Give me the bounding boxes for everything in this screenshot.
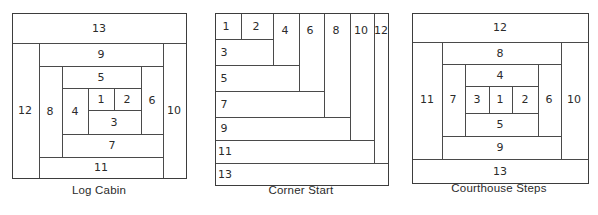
caption-courthouse-steps: Courthouse Steps bbox=[400, 182, 598, 194]
piece-number-log-cabin-3: 3 bbox=[111, 116, 118, 129]
piece-number-courthouse-steps-4: 4 bbox=[497, 69, 504, 82]
piece-number-courthouse-steps-2: 2 bbox=[522, 93, 529, 106]
piece-number-courthouse-steps-12: 12 bbox=[493, 21, 507, 34]
piece-number-corner-start-7: 7 bbox=[221, 98, 228, 111]
piece-number-log-cabin-9: 9 bbox=[98, 48, 105, 61]
piece-number-courthouse-steps-13: 13 bbox=[493, 165, 507, 178]
piece-number-log-cabin-2: 2 bbox=[124, 93, 131, 106]
piece-corner-start-11 bbox=[216, 141, 375, 164]
piece-number-log-cabin-5: 5 bbox=[98, 71, 105, 84]
piece-number-log-cabin-13: 13 bbox=[92, 22, 106, 35]
piece-number-log-cabin-6: 6 bbox=[149, 94, 156, 107]
piece-corner-start-7 bbox=[216, 92, 325, 118]
piece-number-courthouse-steps-10: 10 bbox=[567, 93, 581, 106]
piece-number-corner-start-2: 2 bbox=[253, 20, 260, 33]
piece-number-corner-start-5: 5 bbox=[221, 72, 228, 85]
piece-number-corner-start-6: 6 bbox=[307, 24, 314, 37]
piece-number-log-cabin-10: 10 bbox=[167, 104, 181, 117]
caption-corner-start: Corner Start bbox=[202, 184, 400, 196]
blocks-group: 1234567891011121312345678910111213123456… bbox=[13, 14, 589, 186]
piece-number-log-cabin-7: 7 bbox=[109, 139, 116, 152]
piece-number-courthouse-steps-9: 9 bbox=[497, 141, 504, 154]
quilt-diagram-page: 1234567891011121312345678910111213123456… bbox=[0, 0, 598, 215]
quilt-block-log-cabin: 12345678910111213 bbox=[13, 14, 187, 179]
piece-number-log-cabin-12: 12 bbox=[18, 104, 32, 117]
piece-number-corner-start-10: 10 bbox=[354, 24, 368, 37]
piece-number-corner-start-11: 11 bbox=[218, 145, 232, 158]
piece-corner-start-5 bbox=[216, 66, 300, 92]
quilt-block-courthouse-steps: 12345678910111213 bbox=[413, 14, 589, 184]
piece-number-courthouse-steps-3: 3 bbox=[474, 93, 481, 106]
piece-number-log-cabin-1: 1 bbox=[98, 93, 105, 106]
piece-number-corner-start-8: 8 bbox=[333, 24, 340, 37]
piece-corner-start-4 bbox=[274, 14, 300, 66]
quilt-block-corner-start: 12345678910111213 bbox=[216, 14, 389, 186]
piece-corner-start-13 bbox=[216, 164, 389, 186]
piece-number-corner-start-13: 13 bbox=[218, 168, 232, 181]
caption-log-cabin: Log Cabin bbox=[0, 184, 198, 196]
piece-number-corner-start-12: 12 bbox=[374, 24, 388, 37]
piece-number-corner-start-4: 4 bbox=[282, 24, 289, 37]
piece-number-courthouse-steps-6: 6 bbox=[546, 93, 553, 106]
piece-number-courthouse-steps-5: 5 bbox=[497, 118, 504, 131]
piece-number-courthouse-steps-11: 11 bbox=[420, 93, 434, 106]
piece-number-corner-start-1: 1 bbox=[223, 20, 230, 33]
piece-corner-start-9 bbox=[216, 118, 351, 141]
piece-number-courthouse-steps-8: 8 bbox=[497, 47, 504, 60]
piece-number-log-cabin-4: 4 bbox=[72, 105, 79, 118]
piece-number-log-cabin-8: 8 bbox=[47, 105, 54, 118]
piece-number-courthouse-steps-7: 7 bbox=[450, 93, 457, 106]
piece-number-corner-start-9: 9 bbox=[221, 122, 228, 135]
piece-number-courthouse-steps-1: 1 bbox=[497, 93, 504, 106]
piece-number-corner-start-3: 3 bbox=[221, 46, 228, 59]
piece-number-log-cabin-11: 11 bbox=[94, 161, 108, 174]
